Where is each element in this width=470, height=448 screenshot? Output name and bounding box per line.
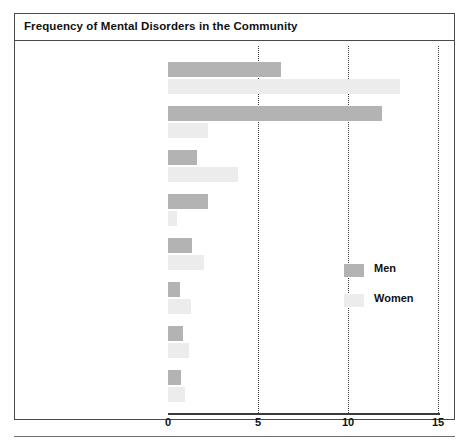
- bar-women: [168, 167, 238, 182]
- bar-women: [168, 343, 189, 358]
- legend-label-men: Men: [374, 262, 396, 274]
- legend-item-women: Women: [344, 292, 439, 322]
- bar-group: Major depression: [168, 148, 438, 192]
- x-tick-0: 0: [165, 416, 171, 428]
- bar-women: [168, 123, 208, 138]
- bar-men: [168, 194, 208, 209]
- bar-men: [168, 150, 197, 165]
- legend-swatch-men-icon: [344, 264, 364, 277]
- legend-swatch-women-icon: [344, 294, 364, 307]
- bar-group: Antisocial personality disorder: [168, 192, 438, 236]
- x-axis-line: [168, 413, 440, 415]
- bar-women: [168, 299, 191, 314]
- bar-group: Bipolar mood disorder: [168, 368, 438, 412]
- bar-group: Phobic disorder: [168, 60, 438, 104]
- legend-label-women: Women: [374, 292, 414, 304]
- bar-group: Alcohol abuse/dependence: [168, 104, 438, 148]
- title-divider: [15, 40, 454, 41]
- bar-men: [168, 62, 281, 77]
- bar-men: [168, 106, 382, 121]
- bar-women: [168, 211, 177, 226]
- bar-group: Schizophrenia: [168, 324, 438, 368]
- x-tick-15: 15: [432, 416, 444, 428]
- bar-women: [168, 387, 185, 402]
- gridline-15: [438, 46, 439, 413]
- x-tick-5: 5: [255, 416, 261, 428]
- legend: Men Women: [344, 262, 439, 322]
- legend-item-men: Men: [344, 262, 439, 292]
- bar-men: [168, 282, 180, 297]
- bar-women: [168, 79, 400, 94]
- bar-women: [168, 255, 204, 270]
- plot-area: Phobic disorderAlcohol abuse/dependenceM…: [168, 46, 438, 413]
- chart-title: Frequency of Mental Disorders in the Com…: [24, 20, 298, 32]
- bar-men: [168, 370, 181, 385]
- bar-men: [168, 238, 192, 253]
- x-tick-10: 10: [342, 416, 354, 428]
- bar-men: [168, 326, 183, 341]
- chart-page: Frequency of Mental Disorders in the Com…: [0, 0, 470, 448]
- caption-divider: [14, 436, 455, 437]
